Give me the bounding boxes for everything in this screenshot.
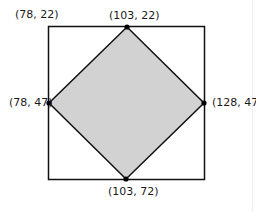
vertex-label-top: (103, 22) xyxy=(109,10,160,22)
corner-label-top-left: (78, 22) xyxy=(15,9,59,21)
vertex-point-right xyxy=(201,100,206,105)
vertex-label-bottom: (103, 72) xyxy=(108,186,159,198)
vertex-point-top xyxy=(124,24,129,29)
vertex-point-bottom xyxy=(123,176,128,181)
vertex-label-right: (128, 47) xyxy=(212,97,256,109)
vertex-label-left: (78, 47) xyxy=(9,97,53,109)
inner-diamond xyxy=(49,27,204,179)
